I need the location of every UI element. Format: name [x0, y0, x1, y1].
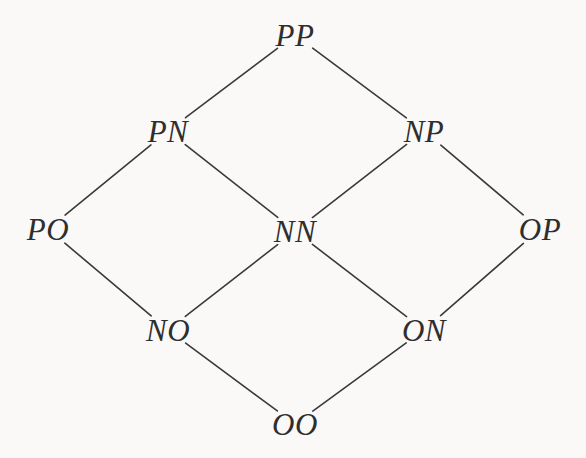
lattice-diagram: PPPNNPPONNOPNOONOO	[0, 0, 586, 458]
lattice-node-OO: OO	[272, 409, 318, 440]
lattice-node-NN: NN	[274, 216, 316, 247]
lattice-node-NP: NP	[404, 116, 445, 147]
node-layer: PPPNNPPONNOPNOONOO	[0, 0, 586, 458]
lattice-node-NO: NO	[146, 315, 190, 346]
lattice-node-PN: PN	[148, 116, 189, 147]
lattice-node-PP: PP	[276, 20, 315, 51]
lattice-node-OP: OP	[519, 214, 561, 245]
lattice-node-PO: PO	[27, 214, 69, 245]
lattice-node-ON: ON	[402, 315, 446, 346]
